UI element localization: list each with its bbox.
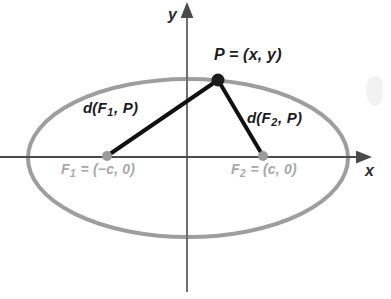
focus-point-f1-label-suffix: = (−c, 0) [76, 161, 135, 177]
segment-d-f1-p-label-suffix: , P) [114, 99, 138, 116]
point-p-label: P = (x, y) [214, 47, 282, 63]
focus-point-f2-label-suffix: = (c, 0) [246, 161, 296, 177]
focus-point-f2-label-prefix: F [231, 161, 240, 177]
x-axis-label: x [365, 163, 374, 179]
ellipse-foci-figure: P = (x, y) d(F1, P) d(F2, P) F1 = (−c, 0… [0, 0, 391, 299]
focus-point-f2-dot [258, 151, 268, 161]
point-p-dot [212, 74, 225, 87]
segment-d-f2-p-label-suffix: , P) [278, 109, 302, 126]
segment-d-f1-p-label-subscript: 1 [107, 106, 114, 118]
scan-smudge-artifact [366, 76, 383, 106]
figure-canvas [0, 0, 391, 299]
focus-point-f1-dot [102, 151, 112, 161]
focus-point-f2-label: F2 = (c, 0) [231, 162, 297, 179]
segment-d-f2-p-label-subscript: 2 [271, 116, 278, 128]
segment-d-f1-p-label: d(F1, P) [83, 100, 138, 118]
segment-d-f2-p-label: d(F2, P) [247, 110, 302, 128]
segment-d-f2-p-label-prefix: d(F [247, 109, 271, 126]
segment-d-f1-p-label-prefix: d(F [83, 99, 107, 116]
focus-point-f1-label-prefix: F [61, 161, 70, 177]
y-axis-label: y [168, 7, 177, 23]
focus-point-f1-label: F1 = (−c, 0) [61, 162, 135, 179]
